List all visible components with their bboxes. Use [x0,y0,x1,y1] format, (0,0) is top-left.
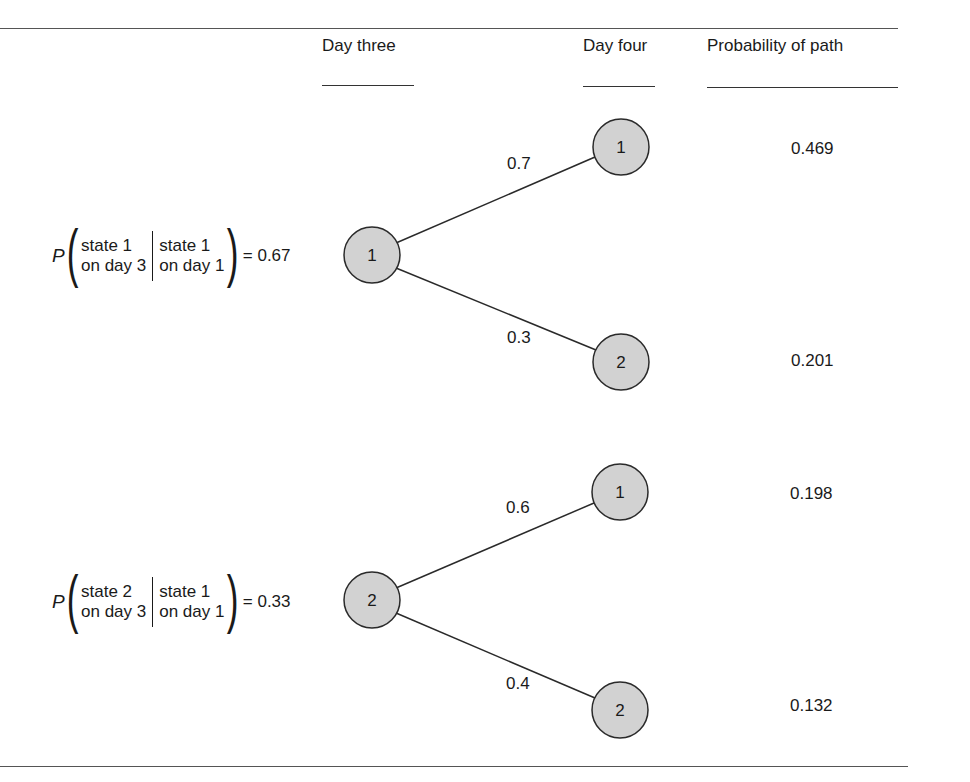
given-bar [152,231,153,281]
prob-symbol: P [52,246,65,266]
svg-text:2: 2 [367,591,376,610]
probability-value: = 0.33 [243,592,291,612]
event-stack: state 2 on day 3 [78,582,149,622]
day-three-node-2: 2 [344,572,400,628]
path-probability-1: 0.469 [791,139,834,159]
svg-text:1: 1 [615,483,624,502]
probability-tree: 1 2 1 2 1 2 [0,0,970,782]
svg-text:2: 2 [616,353,625,372]
left-paren: ( [66,567,78,631]
day-four-node-2b: 2 [592,682,648,738]
branch-label-2-1: 0.6 [506,498,530,518]
svg-text:1: 1 [616,138,625,157]
branch-label-1-2: 0.3 [507,328,531,348]
right-paren: ) [227,221,239,285]
probability-value: = 0.67 [243,246,291,266]
path-probability-3: 0.198 [790,484,833,504]
condition-stack: state 1 on day 1 [156,236,227,276]
edge-2-to-2 [396,613,595,698]
day-four-node-1b: 1 [592,464,648,520]
branch-label-1-1: 0.7 [507,154,531,174]
right-paren: ) [227,567,239,631]
path-probability-2: 0.201 [791,351,834,371]
edge-1-to-1 [396,157,595,243]
day-three-node-1: 1 [344,227,400,283]
day-four-node-2a: 2 [593,334,649,390]
conditional-probability-state-2: P ( state 2 on day 3 state 1 on day 1 ) … [52,570,291,634]
day-four-node-1a: 1 [593,119,649,175]
tree-edges [396,157,596,698]
svg-text:2: 2 [615,701,624,720]
condition-stack: state 1 on day 1 [156,582,227,622]
prob-symbol: P [52,592,65,612]
given-bar [152,577,153,627]
event-stack: state 1 on day 3 [78,236,149,276]
conditional-probability-state-1: P ( state 1 on day 3 state 1 on day 1 ) … [52,224,291,288]
left-paren: ( [66,221,78,285]
branch-label-2-2: 0.4 [506,674,530,694]
path-probability-4: 0.132 [790,696,833,716]
edge-2-to-1 [396,503,594,588]
edge-1-to-2 [396,268,596,350]
svg-text:1: 1 [367,246,376,265]
